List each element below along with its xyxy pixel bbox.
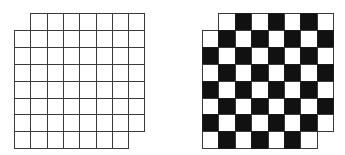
grid-square [63,114,80,132]
grid-square [300,64,318,82]
grid-square [317,81,334,99]
grid-square [30,114,48,132]
grid-square [63,98,80,115]
grid-square [96,98,113,115]
grid-square [218,98,236,115]
grid-square [79,114,97,132]
grid-square [96,47,113,65]
grid-square [112,30,129,48]
grid-square [235,30,252,48]
grid-square [63,30,80,48]
grid-square [96,131,113,149]
grid-square [47,98,64,115]
grid-square [47,81,64,99]
grid-square [14,98,31,115]
grid-square [96,64,113,82]
grid-square [14,81,31,99]
grid-square [112,131,129,149]
grid-square [128,114,145,132]
grid-square [300,30,318,48]
grid-square [251,114,269,132]
grid-square [268,81,285,99]
grid-square [251,131,269,149]
grid-square [268,30,285,48]
grid-square [284,30,301,48]
grid-square [112,64,129,82]
grid-square [79,131,97,149]
grid-square [251,30,269,48]
grid-square [202,98,219,115]
grid-square [47,47,64,65]
grid-square [300,13,318,31]
grid-square [284,64,301,82]
grid-square [268,47,285,65]
grid-square [30,131,48,149]
grid-square [128,13,145,31]
grid-square [317,64,334,82]
grid-square [251,64,269,82]
grid-square [96,114,113,132]
grid-square [202,64,219,82]
grid-square [251,98,269,115]
grid-square [235,131,252,149]
grid-square [218,47,236,65]
grid-square [284,47,301,65]
grid-square [14,114,31,132]
grid-square [47,30,64,48]
grid-square [14,30,31,48]
grid-square [268,64,285,82]
grid-square [30,98,48,115]
grid-square [47,64,64,82]
grid-square [317,13,334,31]
grid-square [112,13,129,31]
grid-square [128,81,145,99]
grid-square [235,13,252,31]
grid-square [63,64,80,82]
grid-square [218,30,236,48]
grid-square [284,98,301,115]
grid-square [47,114,64,132]
grid-square [202,47,219,65]
grid-square [235,98,252,115]
grid-square [112,47,129,65]
grid-square [47,131,64,149]
grid-square [268,98,285,115]
grid-square [63,47,80,65]
grid-square [218,64,236,82]
grid-square [202,30,219,48]
grid-square [251,47,269,65]
grid-square [235,64,252,82]
grid-square [251,81,269,99]
grid-square [317,98,334,115]
grid-square [14,47,31,65]
grid-square [218,131,236,149]
grid-square [284,81,301,99]
grid-square [63,81,80,99]
grid-square [235,47,252,65]
grid-square [112,81,129,99]
grid-square [96,30,113,48]
grid-square [96,13,113,31]
grid-square [268,114,285,132]
grid-square [284,13,301,31]
grid-square [218,114,236,132]
grid-square [268,13,285,31]
grid-square [79,81,97,99]
grid-square [128,47,145,65]
grid-square [128,98,145,115]
grid-square [79,64,97,82]
grid-square [30,47,48,65]
grid-square [202,131,219,149]
grid-square [30,30,48,48]
grid-square [284,131,301,149]
grid-square [47,13,64,31]
grid-square [79,98,97,115]
grid-square [30,81,48,99]
grid-square [96,81,113,99]
grid-square [30,64,48,82]
grid-square [202,114,219,132]
grid-square [300,81,318,99]
grid-square [317,30,334,48]
grid-square [112,98,129,115]
grid-square [30,13,48,31]
